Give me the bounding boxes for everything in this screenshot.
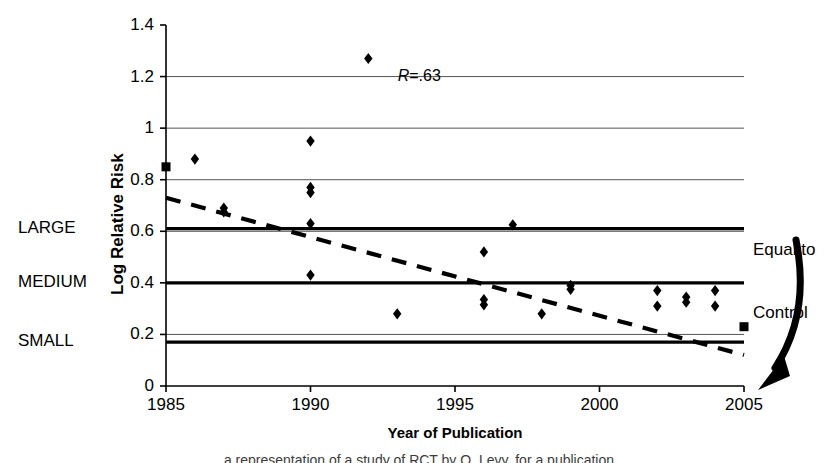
y-tick-label-1: 1 xyxy=(110,118,154,138)
data-point-square xyxy=(740,322,749,331)
chart-figure: 00.20.40.60.811.21.4 1985199019952000200… xyxy=(0,0,838,463)
x-axis-title: Year of Publication xyxy=(305,424,605,441)
data-point-diamond xyxy=(653,300,661,311)
y-axis-title: Log Relative Risk xyxy=(108,153,128,295)
correlation-annotation: R=.63 xyxy=(380,49,441,104)
data-point-diamond xyxy=(306,135,314,146)
x-tick-label-2005: 2005 xyxy=(714,395,774,415)
reference-label-large: LARGE xyxy=(18,218,76,238)
data-point-square xyxy=(162,162,171,171)
data-point-diamond xyxy=(191,153,199,164)
equal-to-control-label: Equal to Control xyxy=(753,196,815,366)
reference-label-medium: MEDIUM xyxy=(18,272,87,292)
data-point-diamond xyxy=(364,53,372,64)
x-tick-label-1995: 1995 xyxy=(425,395,485,415)
x-tick-label-1990: 1990 xyxy=(281,395,341,415)
data-point-diamond xyxy=(653,285,661,296)
y-tick-label-1.4: 1.4 xyxy=(110,15,154,35)
equal-to-control-line1: Equal to xyxy=(753,239,815,260)
y-tick-label-0: 0 xyxy=(110,376,154,396)
figure-caption: a representation of a study of RCT by Q.… xyxy=(0,452,838,463)
equal-to-control-line2: Control xyxy=(753,302,815,323)
x-tick-label-2000: 2000 xyxy=(570,395,630,415)
data-point-diamond xyxy=(480,246,488,257)
y-tick-label-0.2: 0.2 xyxy=(110,324,154,344)
y-tick-label-1.2: 1.2 xyxy=(110,67,154,87)
data-point-diamond xyxy=(538,308,546,319)
data-point-diamond xyxy=(711,300,719,311)
data-point-diamond xyxy=(306,270,314,281)
data-markers-group xyxy=(162,53,749,331)
reference-label-small: SMALL xyxy=(18,331,74,351)
data-point-diamond xyxy=(711,285,719,296)
data-point-diamond xyxy=(393,308,401,319)
trendline xyxy=(166,198,744,355)
trendline-path xyxy=(166,198,744,355)
x-tick-label-1985: 1985 xyxy=(136,395,196,415)
correlation-value: =.63 xyxy=(409,67,441,84)
correlation-symbol: R xyxy=(398,67,410,84)
axes-group xyxy=(160,25,744,392)
